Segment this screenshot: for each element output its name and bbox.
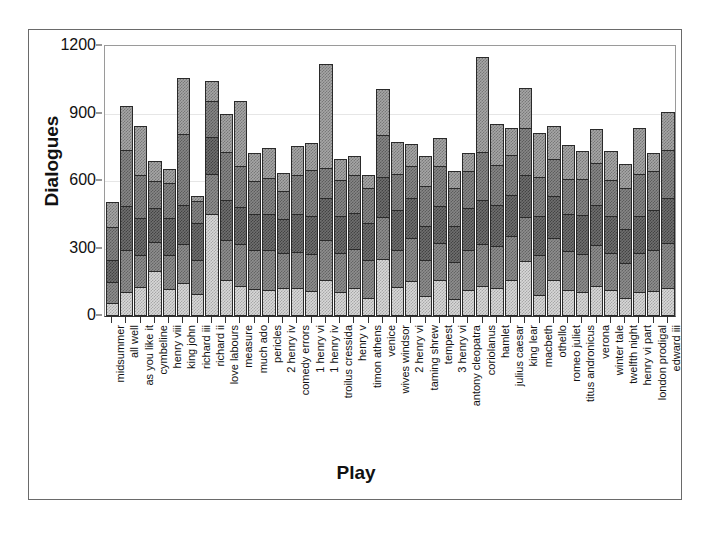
bar-stack[interactable]	[347, 46, 361, 316]
bar-stack[interactable]	[105, 46, 119, 316]
bar-segment	[248, 181, 261, 214]
x-axis-tick-labels: midsummerall wellas you like itcymbeline…	[104, 325, 674, 450]
bar-stack[interactable]	[176, 46, 190, 316]
bar-stack[interactable]	[447, 46, 461, 316]
x-label-cell: venice	[375, 325, 389, 450]
bar-stack[interactable]	[305, 46, 319, 316]
x-tick	[660, 317, 674, 324]
bar-stack[interactable]	[219, 46, 233, 316]
bar-segment	[462, 290, 475, 316]
bar-segment	[505, 236, 518, 280]
bar-stack[interactable]	[290, 46, 304, 316]
bar-segment	[661, 198, 674, 243]
bar-segment	[277, 253, 290, 288]
bar-segment	[562, 179, 575, 214]
bar-stack[interactable]	[533, 46, 547, 316]
bar-segment	[220, 114, 233, 152]
bar-segment	[262, 178, 275, 214]
bar-segment	[462, 208, 475, 250]
x-axis-ticks	[104, 317, 674, 324]
bar-stack[interactable]	[248, 46, 262, 316]
bar-segment	[647, 250, 660, 292]
bar-stack[interactable]	[604, 46, 618, 316]
bar-stack[interactable]	[419, 46, 433, 316]
bar-segment	[319, 168, 332, 198]
bar-stack[interactable]	[461, 46, 475, 316]
bar-segment	[305, 254, 318, 291]
bar-stack[interactable]	[276, 46, 290, 316]
bar-segment	[419, 186, 432, 227]
x-axis-title: Play	[0, 462, 712, 484]
bar-stack[interactable]	[134, 46, 148, 316]
bar-stack[interactable]	[233, 46, 247, 316]
bar-stack[interactable]	[191, 46, 205, 316]
bar-stack[interactable]	[333, 46, 347, 316]
bar-segment	[205, 174, 218, 213]
x-tick	[617, 317, 631, 324]
bar-stack[interactable]	[148, 46, 162, 316]
bar-stack[interactable]	[376, 46, 390, 316]
x-label-cell: taming shrew	[418, 325, 432, 450]
bar-stack[interactable]	[518, 46, 532, 316]
x-tick	[389, 317, 403, 324]
bar-stack[interactable]	[618, 46, 632, 316]
bar-stack[interactable]	[547, 46, 561, 316]
bar-stack[interactable]	[632, 46, 646, 316]
bar-segment	[191, 223, 204, 260]
bar-stack[interactable]	[162, 46, 176, 316]
bar-segment	[163, 218, 176, 255]
x-tick	[460, 317, 474, 324]
bar-segment	[277, 219, 290, 253]
bar-segment	[391, 174, 404, 210]
bar-stack[interactable]	[404, 46, 418, 316]
x-tick	[275, 317, 289, 324]
bar-segment	[405, 198, 418, 239]
x-tick-mark	[382, 317, 383, 323]
x-label-cell: henry viii	[161, 325, 175, 450]
x-tick	[589, 317, 603, 324]
bar-segment	[106, 303, 119, 317]
bar-segment	[661, 243, 674, 288]
bar-stack[interactable]	[575, 46, 589, 316]
bar-segment	[348, 213, 361, 249]
bar-stack[interactable]	[647, 46, 661, 316]
bar-segment	[362, 260, 375, 298]
bar-stack[interactable]	[319, 46, 333, 316]
bar-stack[interactable]	[362, 46, 376, 316]
bar-segment	[220, 280, 233, 316]
bar-segment	[562, 145, 575, 179]
x-tick	[247, 317, 261, 324]
x-label-cell: hamlet	[489, 325, 503, 450]
bar-segment	[305, 143, 318, 170]
x-label-cell: king john	[175, 325, 189, 450]
bar-segment	[405, 281, 418, 316]
x-tick-mark	[496, 317, 497, 323]
x-label-cell: all well	[118, 325, 132, 450]
bar-segment	[619, 188, 632, 230]
bar-stack[interactable]	[433, 46, 447, 316]
bar-segment	[476, 57, 489, 152]
bar-stack[interactable]	[390, 46, 404, 316]
bar-segment	[604, 151, 617, 180]
bar-segment	[519, 217, 532, 261]
x-label-cell: 3 henry vi	[446, 325, 460, 450]
x-label-cell: cymbeline	[147, 325, 161, 450]
bar-stack[interactable]	[476, 46, 490, 316]
bar-segment	[120, 150, 133, 206]
bar-stack[interactable]	[490, 46, 504, 316]
bar-stack[interactable]	[661, 46, 675, 316]
bar-stack[interactable]	[504, 46, 518, 316]
bar-segment	[433, 280, 446, 316]
bar-segment	[476, 200, 489, 244]
bar-segment	[348, 156, 361, 175]
bar-stack[interactable]	[205, 46, 219, 316]
bar-stack[interactable]	[561, 46, 575, 316]
x-tick	[304, 317, 318, 324]
bar-segment	[448, 262, 461, 299]
bar-segment	[376, 135, 389, 177]
bar-segment	[376, 259, 389, 316]
bar-stack[interactable]	[119, 46, 133, 316]
bar-stack[interactable]	[590, 46, 604, 316]
y-tick-mark	[96, 112, 102, 113]
bar-stack[interactable]	[262, 46, 276, 316]
